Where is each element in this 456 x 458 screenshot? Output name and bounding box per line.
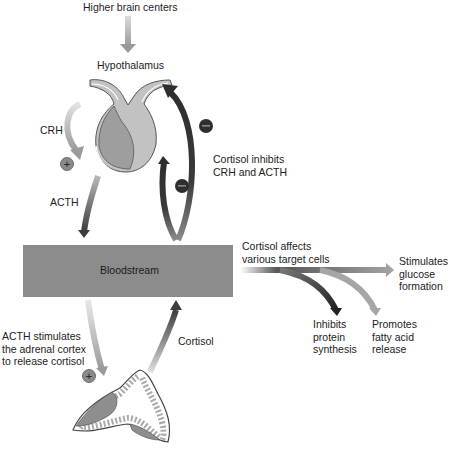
cortisol-to-protein-synthesis-arrow: [280, 270, 342, 316]
cortisol-affects-line-1: Cortisol affects: [242, 240, 330, 253]
higher-brain-centers-label: Higher brain centers: [83, 1, 178, 14]
acth-stimulates-label: ACTH stimulates the adrenal cortex to re…: [2, 330, 86, 368]
inhibit-hypothalamus-minus-badge: [199, 119, 213, 133]
promotes-fatty-acid-line-3: release: [372, 343, 417, 356]
svg-text:+: +: [86, 370, 92, 382]
acth-label: ACTH: [50, 196, 79, 209]
acth-stimulates-line-1: ACTH stimulates: [2, 330, 86, 343]
svg-text:+: +: [64, 158, 70, 170]
acth-to-adrenal-arrow: [88, 300, 108, 376]
crh-arrow: [67, 104, 84, 160]
hypothalamus-label: Hypothalamus: [97, 59, 164, 72]
stimulates-glucose-line-3: formation: [399, 280, 448, 293]
inhibits-protein-line-2: protein: [313, 331, 357, 344]
crh-label: CRH: [40, 124, 63, 137]
stimulates-glucose-line-2: glucose: [399, 268, 448, 281]
cortisol-to-glucose-formation-arrow: [240, 263, 394, 277]
acth-down-arrow: [78, 176, 98, 238]
stimulates-glucose-label: Stimulates glucose formation: [399, 255, 448, 293]
cortisol-inhibits-label: Cortisol inhibits CRH and ACTH: [213, 153, 287, 178]
acth-stimulate-plus-badge: +: [83, 370, 96, 383]
inhibits-protein-label: Inhibits protein synthesis: [313, 318, 357, 356]
cortisol-inhibits-line-2: CRH and ACTH: [213, 166, 287, 179]
cortisol-label: Cortisol: [178, 335, 214, 348]
promotes-fatty-acid-label: Promotes fatty acid release: [372, 318, 417, 356]
hpa-axis-diagram: + +: [0, 0, 456, 458]
stimulates-glucose-line-1: Stimulates: [399, 255, 448, 268]
cortisol-affects-line-2: various target cells: [242, 253, 330, 266]
promotes-fatty-acid-line-2: fatty acid: [372, 331, 417, 344]
pituitary-gland-illustration: [90, 80, 172, 174]
promotes-fatty-acid-line-1: Promotes: [372, 318, 417, 331]
crh-stimulate-plus-badge: +: [61, 158, 74, 171]
inhibits-protein-line-3: synthesis: [313, 343, 357, 356]
inhibit-pituitary-minus-badge: [175, 179, 189, 193]
acth-stimulates-line-2: the adrenal cortex: [2, 343, 86, 356]
cortisol-inhibits-line-1: Cortisol inhibits: [213, 153, 287, 166]
inhibits-protein-line-1: Inhibits: [313, 318, 357, 331]
higher-brain-to-hypothalamus-arrow: [120, 16, 136, 53]
cortisol-affects-label: Cortisol affects various target cells: [242, 240, 330, 265]
bloodstream-label: Bloodstream: [100, 264, 159, 277]
cortisol-to-fatty-acid-arrow: [320, 270, 381, 316]
acth-stimulates-line-3: to release cortisol: [2, 355, 86, 368]
cortisol-feedback-to-pituitary-arrow: [158, 156, 176, 240]
